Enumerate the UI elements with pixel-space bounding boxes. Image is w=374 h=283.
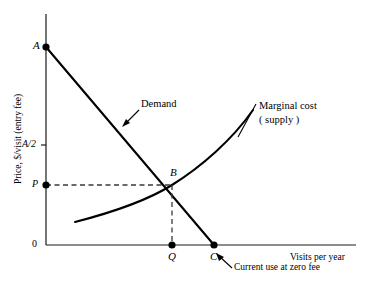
marginal-cost-label-line2: ( supply ) [259, 114, 299, 126]
marginal-cost-label-line1: Marginal cost [259, 100, 317, 112]
point-marker-C [210, 241, 217, 248]
zero-fee-leader-arrow [216, 253, 232, 268]
x-tick-label-Q: Q [168, 250, 176, 263]
marginal-cost-curve [75, 110, 253, 222]
y-tick-label-a-half: A/2 [22, 138, 36, 150]
point-marker-Q [168, 241, 175, 248]
point-label-B: B [170, 166, 177, 179]
zero-fee-note-label: Current use at zero fee [234, 262, 320, 273]
point-marker-P [42, 181, 49, 188]
figure-canvas [0, 0, 374, 283]
point-marker-A [42, 43, 49, 50]
demand-leader-arrow [122, 110, 139, 127]
y-tick-label-p: P [32, 178, 38, 190]
demand-curve-label: Demand [141, 98, 177, 110]
economics-supply-demand-figure: Price, $/visit (entry fee) Visits per ye… [0, 0, 374, 283]
y-tick-label-zero: 0 [32, 238, 37, 250]
x-tick-label-C: C [210, 250, 217, 263]
demand-curve [46, 47, 214, 245]
point-label-A: A [33, 39, 40, 52]
marginal-cost-leader [238, 104, 256, 137]
